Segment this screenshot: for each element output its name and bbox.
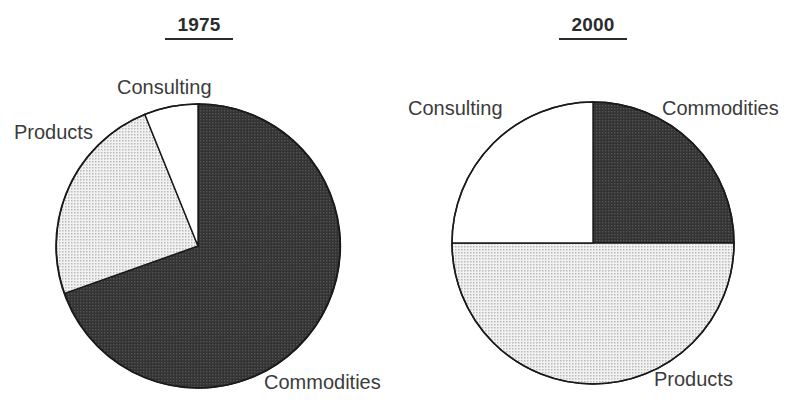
pie-label-consulting-2000: Consulting bbox=[408, 97, 503, 119]
pie-chart-figure: 1975 Consulting Products Co bbox=[0, 0, 797, 406]
pie-slice-products-2000[interactable] bbox=[452, 243, 734, 384]
pie-chart-2000 bbox=[452, 102, 734, 384]
pie-label-commodities-1975: Commodities bbox=[264, 371, 381, 393]
pie-chart-1975 bbox=[56, 104, 344, 392]
pie-slice-commodities-2000[interactable] bbox=[593, 102, 734, 243]
pie-label-consulting-1975: Consulting bbox=[117, 76, 212, 98]
pie-label-products-2000: Products bbox=[654, 368, 733, 390]
pie-label-commodities-2000: Commodities bbox=[662, 97, 779, 119]
chart-title-1975: 1975 bbox=[165, 14, 233, 40]
pie-slice-consulting-2000[interactable] bbox=[452, 102, 593, 243]
chart-title-2000: 2000 bbox=[559, 14, 627, 40]
pie-label-products-1975: Products bbox=[14, 121, 93, 143]
